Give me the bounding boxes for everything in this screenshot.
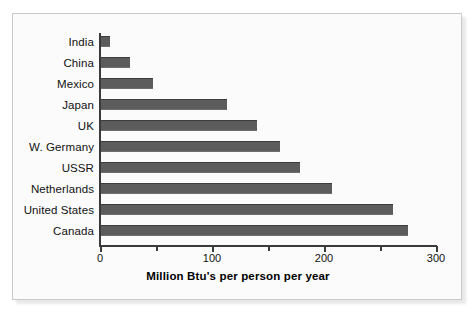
bar: [100, 78, 153, 89]
bar-fill: [100, 78, 153, 89]
chart-figure: IndiaChinaMexicoJapanUKW. GermanyUSSRNet…: [0, 0, 476, 317]
category-label: Netherlands: [0, 184, 94, 195]
bar-fill: [100, 225, 408, 236]
x-tick-label: 100: [192, 252, 232, 264]
y-axis-line: [99, 33, 101, 246]
category-label: United States: [0, 205, 94, 216]
bar: [100, 120, 257, 131]
bar: [100, 183, 332, 194]
bar: [100, 57, 130, 68]
bar: [100, 204, 393, 215]
bar: [100, 36, 110, 47]
bar-fill: [100, 162, 300, 173]
bar: [100, 141, 280, 152]
category-label: Canada: [0, 226, 94, 237]
bar: [100, 225, 408, 236]
category-label: UK: [0, 121, 94, 132]
x-tick-label: 200: [304, 252, 344, 264]
bar-fill: [100, 141, 280, 152]
bar: [100, 99, 227, 110]
category-label: India: [0, 37, 94, 48]
x-tick-minor: [380, 246, 382, 251]
category-label: USSR: [0, 163, 94, 174]
bar-fill: [100, 99, 227, 110]
category-label: Japan: [0, 100, 94, 111]
bar-fill: [100, 57, 130, 68]
x-tick-minor: [268, 246, 270, 251]
x-tick-minor: [156, 246, 158, 251]
category-label: Mexico: [0, 79, 94, 90]
x-tick-label: 300: [416, 252, 456, 264]
x-tick-label: 0: [80, 252, 120, 264]
x-axis-title: Million Btu's per person per year: [0, 270, 476, 282]
category-label: W. Germany: [0, 142, 94, 153]
bar: [100, 162, 300, 173]
bar-fill: [100, 183, 332, 194]
bar-fill: [100, 204, 393, 215]
bar-fill: [100, 120, 257, 131]
category-label: China: [0, 58, 94, 69]
bar-fill: [100, 36, 110, 47]
